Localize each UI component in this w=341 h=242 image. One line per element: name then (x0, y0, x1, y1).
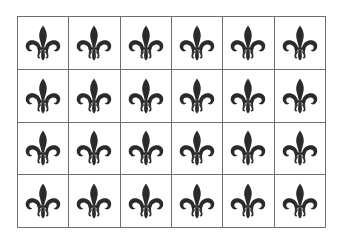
fleur-de-lis-icon (75, 24, 113, 62)
grid-cell-r2-c6 (275, 70, 326, 123)
fleur-de-lis-icon (178, 77, 216, 115)
grid-cell-r4-c6 (275, 175, 326, 228)
fleur-de-lis-icon (127, 24, 165, 62)
fleur-de-lis-icon (127, 77, 165, 115)
grid-cell-r1-c4 (172, 17, 223, 70)
grid-cell-r2-c3 (121, 70, 172, 123)
fleur-de-lis-icon (75, 182, 113, 220)
grid-cell-r3-c6 (275, 123, 326, 176)
fleur-de-lis-icon (178, 24, 216, 62)
fleur-de-lis-icon (24, 129, 62, 167)
grid-cell-r2-c4 (172, 70, 223, 123)
fleur-de-lis-icon (178, 182, 216, 220)
fleur-de-lis-icon (281, 24, 319, 62)
grid-cell-r4-c3 (121, 175, 172, 228)
grid-cell-r3-c1 (18, 123, 69, 176)
grid-cell-r3-c3 (121, 123, 172, 176)
fleur-de-lis-icon (229, 24, 267, 62)
grid-cell-r2-c2 (69, 70, 120, 123)
grid-cell-r2-c1 (18, 70, 69, 123)
fleur-de-lis-icon (75, 77, 113, 115)
grid-cell-r3-c5 (223, 123, 274, 176)
grid-cell-r4-c2 (69, 175, 120, 228)
grid-cell-r4-c4 (172, 175, 223, 228)
grid-cell-r1-c6 (275, 17, 326, 70)
grid-cell-r4-c1 (18, 175, 69, 228)
grid-cell-r2-c5 (223, 70, 274, 123)
fleur-de-lis-icon (24, 77, 62, 115)
fleur-de-lis-icon (178, 129, 216, 167)
fleur-de-lis-icon (229, 129, 267, 167)
grid-cell-r4-c5 (223, 175, 274, 228)
grid-cell-r1-c1 (18, 17, 69, 70)
fleur-de-lis-icon (229, 77, 267, 115)
grid-cell-r1-c3 (121, 17, 172, 70)
grid-cell-r3-c4 (172, 123, 223, 176)
fleur-de-lis-icon (24, 24, 62, 62)
grid-cell-r1-c5 (223, 17, 274, 70)
fleur-de-lis-icon (127, 129, 165, 167)
grid-cell-r3-c2 (69, 123, 120, 176)
fleur-de-lis-icon (75, 129, 113, 167)
grid-cell-r1-c2 (69, 17, 120, 70)
fleur-de-lis-icon (127, 182, 165, 220)
fleur-de-lis-icon (281, 182, 319, 220)
fleur-de-lis-icon (281, 77, 319, 115)
fleur-de-lis-icon (229, 182, 267, 220)
fleur-de-lis-grid (17, 16, 326, 228)
fleur-de-lis-icon (24, 182, 62, 220)
fleur-de-lis-icon (281, 129, 319, 167)
